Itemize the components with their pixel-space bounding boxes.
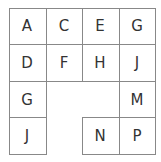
cell-r1-c0: D — [9, 45, 45, 81]
cell-r3-c2: N — [82, 118, 118, 154]
grid-line-v2-bottom — [82, 117, 83, 155]
cell-r1-c2: H — [82, 45, 118, 81]
grid-line-h2-left — [9, 81, 119, 82]
cell-r0-c3: G — [119, 8, 155, 44]
grid-line-v3 — [119, 8, 120, 155]
cell-r0-c1: C — [46, 8, 82, 44]
grid-line-h2-right — [119, 81, 156, 82]
grid-line-v1 — [46, 8, 47, 155]
cell-r2-c0: G — [9, 82, 45, 118]
cell-r3-c3: P — [119, 118, 155, 154]
cell-r1-c1: F — [46, 45, 82, 81]
grid-line-h4-left — [9, 154, 46, 155]
grid-line-v0 — [9, 8, 10, 155]
grid-line-v4 — [155, 8, 156, 155]
cell-r3-c0: J — [9, 118, 45, 154]
cell-r1-c3: J — [119, 45, 155, 81]
cell-r2-c3: M — [119, 82, 155, 118]
grid-line-v2-top — [82, 8, 83, 82]
cell-r0-c2: E — [82, 8, 118, 44]
cell-r0-c0: A — [9, 8, 45, 44]
grid-line-h3-left — [9, 117, 46, 118]
